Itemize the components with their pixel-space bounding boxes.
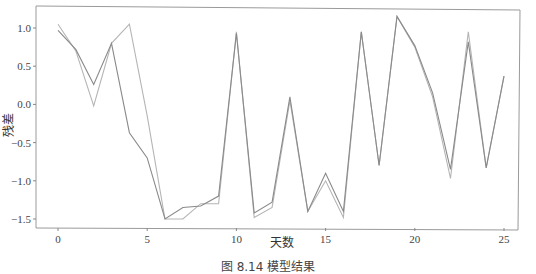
figure-caption: 图 8.14 模型结果: [0, 257, 536, 274]
y-tick-label: 1.0: [17, 22, 31, 34]
x-tick-label: 5: [144, 233, 150, 245]
plot-frame: [36, 6, 520, 230]
x-tick-label: 0: [55, 233, 61, 245]
x-tick-label: 10: [231, 233, 243, 245]
y-tick-label: −0.5: [11, 137, 31, 149]
y-tick-label: −1.5: [11, 213, 31, 225]
series-light-line: [58, 17, 504, 220]
x-tick-label: 15: [320, 233, 332, 245]
x-axis-label: 天数: [270, 235, 294, 250]
y-axis-label: 残差: [2, 113, 16, 137]
series-lines: [58, 17, 504, 220]
residual-line-chart: 1.00.50.0−0.5−1.0−1.5 0510152025 天数 残差: [0, 0, 536, 256]
x-tick-label: 20: [409, 233, 421, 245]
y-tick-label: 0.5: [17, 60, 31, 72]
x-tick-label: 25: [499, 233, 511, 245]
y-tick-label: 0.0: [17, 98, 31, 110]
y-tick-label: −1.0: [11, 175, 31, 187]
